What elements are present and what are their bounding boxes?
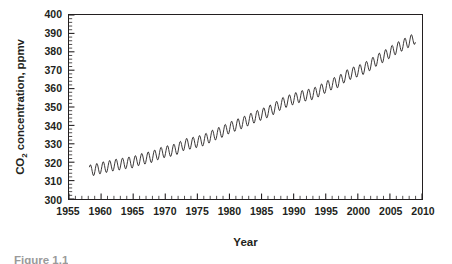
x-tick-label: 1955	[56, 206, 79, 217]
x-axis-tick-labels: 1955196019651970197519801985199019952000…	[0, 0, 452, 264]
figure-caption: Figure 1.1	[14, 254, 68, 264]
x-tick-label: 1985	[250, 206, 273, 217]
x-tick-label: 1995	[314, 206, 337, 217]
x-tick-label: 1965	[121, 206, 144, 217]
x-tick-label: 1980	[218, 206, 241, 217]
x-tick-label: 1975	[185, 206, 208, 217]
x-axis-title: Year	[68, 236, 423, 248]
x-tick-label: 2005	[379, 206, 402, 217]
figure-container: CO2 concentration, ppmv 3003103203303403…	[0, 0, 452, 264]
x-tick-label: 1960	[89, 206, 112, 217]
x-tick-label: 2010	[411, 206, 434, 217]
x-tick-label: 2000	[347, 206, 370, 217]
x-tick-label: 1970	[153, 206, 176, 217]
x-tick-label: 1990	[282, 206, 305, 217]
